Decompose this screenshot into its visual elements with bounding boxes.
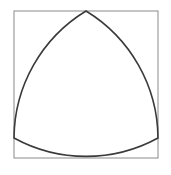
- geometry-diagram: [0, 0, 171, 175]
- reuleaux-triangle-path: [14, 11, 158, 156]
- figure-canvas: [0, 0, 171, 175]
- bounding-square: [14, 11, 158, 158]
